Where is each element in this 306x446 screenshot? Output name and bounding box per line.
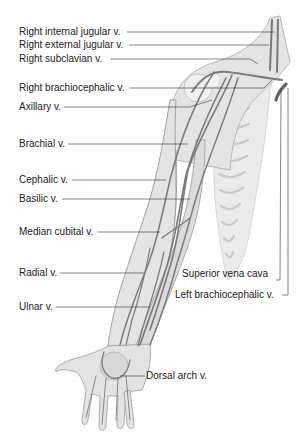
label-right-external-jugular: Right external jugular v. <box>19 39 123 51</box>
label-brachial: Brachial v. <box>19 138 65 150</box>
label-cephalic: Cephalic v. <box>19 174 68 186</box>
label-ulnar: Ulnar v. <box>19 301 53 313</box>
label-right-internal-jugular: Right internal jugular v. <box>19 26 121 38</box>
label-right-subclavian: Right subclavian v. <box>19 53 102 65</box>
label-median-cubital: Median cubital v. <box>19 226 93 238</box>
label-right-brachiocephalic: Right brachiocephalic v. <box>19 82 124 94</box>
label-basilic: Basilic v. <box>19 193 58 205</box>
label-superior-vena-cava: Superior vena cava <box>182 268 268 280</box>
label-dorsal-arch: Dorsal arch v. <box>146 370 207 382</box>
label-left-brachiocephalic: Left brachiocephalic v. <box>175 289 274 301</box>
label-axillary: Axillary v. <box>19 101 61 113</box>
label-radial: Radial v. <box>19 267 57 279</box>
